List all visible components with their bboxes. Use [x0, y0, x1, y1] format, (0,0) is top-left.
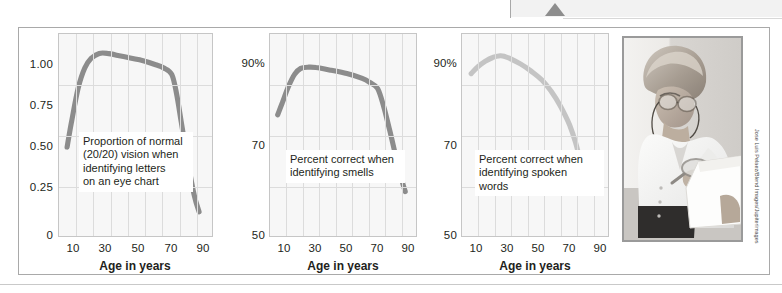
gridline-vertical: [336, 34, 337, 236]
gridline-vertical: [478, 34, 479, 236]
annotation-hearing: Percent correct when identifying spoken …: [475, 150, 604, 196]
gridline-vertical: [303, 34, 304, 236]
gridline-vertical: [528, 34, 529, 236]
xaxis-title-hearing: Age in years: [435, 259, 635, 273]
annotation-line: Percent correct when: [290, 153, 400, 166]
gridline-vertical: [594, 34, 595, 236]
gridline-horizontal: [270, 187, 416, 188]
ytick-hearing-2: 90%: [419, 57, 457, 69]
bottom-horizontal-rule: [0, 284, 782, 285]
gridline-vertical: [352, 34, 353, 236]
xtick-vision-0: 10: [60, 242, 86, 254]
annotation-vision: Proportion of normal (20/20) vision when…: [79, 132, 193, 192]
gridline-vertical: [385, 34, 386, 236]
annotation-line: identifying spoken words: [479, 166, 599, 193]
xtick-vision-1: 30: [92, 242, 118, 254]
gridline-vertical: [286, 34, 287, 236]
ytick-hearing-1: 70: [419, 139, 457, 151]
xtick-hearing-0: 10: [463, 242, 489, 254]
gridline-vertical: [544, 34, 545, 236]
gridline-vertical: [495, 34, 496, 236]
xtick-vision-3: 70: [158, 242, 184, 254]
chart-panel-smell: 90% 70 50 10 30 50 70 90 Age in years Pe…: [231, 28, 431, 276]
photo-illustration: [624, 38, 741, 240]
ytick-hearing-0: 50: [419, 229, 457, 241]
chart-panel-vision: 1.00 0.75 0.50 0.25 0 10 30 50 70 90 Age…: [19, 28, 235, 276]
curve-smell: [270, 34, 416, 236]
gridline-vertical: [369, 34, 370, 236]
gridline-horizontal: [462, 85, 608, 86]
gridline-vertical: [561, 34, 562, 236]
plot-area-smell: [269, 33, 417, 237]
xtick-vision-4: 90: [190, 242, 216, 254]
gridline-vertical: [402, 34, 403, 236]
plot-area-hearing: [461, 33, 609, 237]
curve-hearing: [462, 34, 608, 236]
xtick-smell-2: 50: [333, 242, 359, 254]
xtick-hearing-3: 70: [556, 242, 582, 254]
ytick-smell-2: 90%: [227, 57, 265, 69]
gridline-horizontal: [59, 85, 212, 86]
photo-older-woman-reading: [622, 36, 743, 242]
gridline-vertical: [577, 34, 578, 236]
annotation-line: on an eye chart: [83, 175, 188, 188]
figure-frame: 1.00 0.75 0.50 0.25 0 10 30 50 70 90 Age…: [18, 27, 770, 275]
annotation-smell: Percent correct when identifying smells: [286, 150, 405, 183]
top-horizontal-rule: [563, 18, 782, 19]
xtick-hearing-4: 90: [587, 242, 613, 254]
triangle-up-icon: [545, 3, 565, 16]
gridline-vertical: [511, 34, 512, 236]
gridline-vertical: [76, 34, 77, 236]
xtick-hearing-1: 30: [494, 242, 520, 254]
xtick-smell-0: 10: [271, 242, 297, 254]
gridline-horizontal: [270, 85, 416, 86]
photo-credit: Jose Luis Pelaez/Blend Images/Jupiterima…: [754, 129, 760, 244]
ytick-vision-3: 0.25: [17, 181, 53, 193]
chart-panel-hearing: 90% 70 50 10 30 50 70 90 Age in years Pe…: [423, 28, 623, 276]
xtick-smell-1: 30: [302, 242, 328, 254]
gridline-vertical: [197, 34, 198, 236]
gridline-horizontal: [462, 136, 608, 137]
xaxis-title-smell: Age in years: [243, 259, 443, 273]
annotation-line: (20/20) vision when: [83, 148, 188, 161]
annotation-line: identifying smells: [290, 166, 400, 179]
ytick-vision-1: 0.75: [17, 99, 53, 111]
xtick-hearing-2: 50: [525, 242, 551, 254]
ytick-smell-1: 70: [227, 139, 265, 151]
ytick-vision-0: 1.00: [17, 58, 53, 70]
ytick-vision-4: 0: [17, 229, 53, 241]
ytick-vision-2: 0.50: [17, 140, 53, 152]
top-vertical-rule: [510, 0, 511, 18]
annotation-line: identifying letters: [83, 162, 188, 175]
xtick-smell-3: 70: [364, 242, 390, 254]
annotation-line: Proportion of normal: [83, 135, 188, 148]
ytick-smell-0: 50: [227, 229, 265, 241]
annotation-line: Percent correct when: [479, 153, 599, 166]
xtick-vision-2: 50: [125, 242, 151, 254]
gridline-vertical: [319, 34, 320, 236]
gridline-horizontal: [270, 136, 416, 137]
xaxis-title-vision: Age in years: [35, 259, 235, 273]
xtick-smell-4: 90: [395, 242, 421, 254]
